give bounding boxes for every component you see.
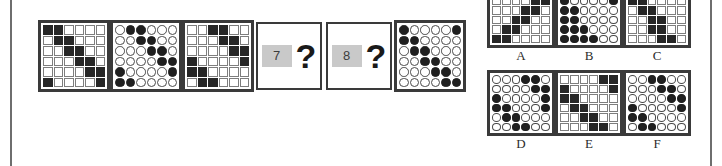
stem-1-cell-r2c3 xyxy=(64,36,74,46)
option-a-cell-r4c5 xyxy=(531,16,540,25)
option-b-cell-r3c4 xyxy=(589,6,598,15)
option-a-cell-r5c2 xyxy=(502,25,511,34)
option-b-cell-r4c1 xyxy=(560,16,569,25)
option-e-cell-r1c2 xyxy=(570,75,579,84)
option-f-cell-r5c4 xyxy=(657,113,666,122)
stem-1-cell-r3c4 xyxy=(75,46,85,56)
question-7-number: 7 xyxy=(262,45,292,67)
stem-6-cell-r2c6 xyxy=(452,36,462,46)
option-d-cell-r3c6 xyxy=(541,94,550,103)
option-f-cell-r4c5 xyxy=(667,104,676,113)
option-b-cell-r4c3 xyxy=(580,16,589,25)
stem-2-cell-r1c5 xyxy=(157,25,167,35)
stem-6-cell-r3c3 xyxy=(420,46,430,56)
option-f-cell-r3c4 xyxy=(657,94,666,103)
stem-2-cell-r6c2 xyxy=(126,78,136,88)
option-f-cell-r1c1 xyxy=(628,75,637,84)
stem-3-cell-r4c2 xyxy=(198,57,208,67)
option-a-cell-r2c3 xyxy=(512,0,521,5)
option-a-cell-r6c6 xyxy=(541,35,550,44)
option-b-cell-r3c1 xyxy=(560,6,569,15)
option-f-cell-r3c5 xyxy=(667,94,676,103)
option-f-cell-r4c6 xyxy=(677,104,686,113)
option-d-cell-r1c6 xyxy=(541,75,550,84)
option-panel-b[interactable] xyxy=(555,0,623,48)
stem-6-cell-r1c3 xyxy=(420,25,430,35)
option-b-cell-r6c3 xyxy=(580,35,589,44)
option-label-b: B xyxy=(554,48,624,64)
stem-1-cell-r2c6 xyxy=(96,36,106,46)
option-panel-d[interactable] xyxy=(487,70,555,136)
option-e-cell-r5c5 xyxy=(599,113,608,122)
option-e-cell-r4c6 xyxy=(609,104,618,113)
option-b-cell-r6c4 xyxy=(589,35,598,44)
option-a-cell-r3c5 xyxy=(531,6,540,15)
stem-panel-3[interactable] xyxy=(182,20,254,92)
option-b-cell-r4c6 xyxy=(609,16,618,25)
option-f-cell-r3c1 xyxy=(628,94,637,103)
option-panel-f[interactable] xyxy=(623,70,691,136)
option-e-cell-r2c2 xyxy=(570,85,579,94)
stem-1-cell-r6c5 xyxy=(85,78,95,88)
question-7-content: 7 ? xyxy=(262,39,317,73)
question-8-mark: ? xyxy=(366,39,387,73)
question-box-8[interactable]: 8 ? xyxy=(326,22,392,90)
option-f-cell-r2c5 xyxy=(667,85,676,94)
option-d-cell-r3c1 xyxy=(492,94,501,103)
stem-1-cell-r4c2 xyxy=(54,57,64,67)
stem-3-cell-r1c4 xyxy=(219,25,229,35)
option-c-cell-r3c1 xyxy=(628,6,637,15)
option-e-cell-r5c2 xyxy=(570,113,579,122)
stem-6-cell-r2c3 xyxy=(420,36,430,46)
option-e-cell-r3c1 xyxy=(560,94,569,103)
option-d-cell-r4c3 xyxy=(512,104,521,113)
option-f-cell-r3c3 xyxy=(648,94,657,103)
option-c-cell-r4c1 xyxy=(628,16,637,25)
option-b-cell-r2c5 xyxy=(599,0,608,5)
option-c-cell-r6c2 xyxy=(638,35,647,44)
option-panel-e[interactable] xyxy=(555,70,623,136)
stem-panel-6[interactable] xyxy=(394,20,466,92)
stem-6-cell-r5c4 xyxy=(431,67,441,77)
option-d-cell-r3c2 xyxy=(502,94,511,103)
option-f-cell-r1c5 xyxy=(667,75,676,84)
stem-2-cell-r6c5 xyxy=(157,78,167,88)
stem-panel-2-grid xyxy=(115,25,177,87)
option-f-cell-r5c2 xyxy=(638,113,647,122)
option-b-cell-r6c2 xyxy=(570,35,579,44)
option-b-cell-r2c6 xyxy=(609,0,618,5)
option-b-cell-r2c3 xyxy=(580,0,589,5)
option-panel-a[interactable] xyxy=(487,0,555,48)
option-c-cell-r2c6 xyxy=(677,0,686,5)
option-e-cell-r5c1 xyxy=(560,113,569,122)
stem-panel-6-grid xyxy=(399,25,461,87)
option-label-a: A xyxy=(486,48,556,64)
stem-6-cell-r2c4 xyxy=(431,36,441,46)
stem-2-cell-r4c2 xyxy=(126,57,136,67)
stem-1-cell-r5c3 xyxy=(64,67,74,77)
option-e-cell-r6c4 xyxy=(589,123,598,132)
stem-3-cell-r1c1 xyxy=(187,25,197,35)
stem-1-cell-r3c3 xyxy=(64,46,74,56)
stem-3-cell-r5c6 xyxy=(240,67,250,77)
option-c-cell-r6c3 xyxy=(648,35,657,44)
option-c-cell-r4c2 xyxy=(638,16,647,25)
option-f-cell-r3c6 xyxy=(677,94,686,103)
option-d-cell-r2c6 xyxy=(541,85,550,94)
question-box-7[interactable]: 7 ? xyxy=(256,22,322,90)
option-c-cell-r3c3 xyxy=(648,6,657,15)
option-panel-c[interactable] xyxy=(623,0,691,48)
option-f-cell-r6c2 xyxy=(638,123,647,132)
option-f-cell-r6c5 xyxy=(667,123,676,132)
option-d-cell-r4c6 xyxy=(541,104,550,113)
option-e-cell-r1c6 xyxy=(609,75,618,84)
option-f-cell-r2c6 xyxy=(677,85,686,94)
option-d-cell-r1c4 xyxy=(521,75,530,84)
stem-3-cell-r3c3 xyxy=(208,46,218,56)
option-c-cell-r3c6 xyxy=(677,6,686,15)
option-f-cell-r3c2 xyxy=(638,94,647,103)
stem-panel-1[interactable] xyxy=(38,20,110,92)
option-c-cell-r4c6 xyxy=(677,16,686,25)
option-c-cell-r5c3 xyxy=(648,25,657,34)
stem-panel-2[interactable] xyxy=(110,20,182,92)
